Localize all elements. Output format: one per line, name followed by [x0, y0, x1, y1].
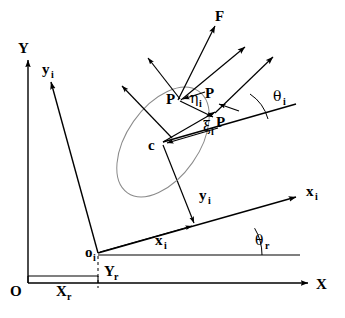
xi-axis-line: [163, 104, 296, 142]
label-coord-yi: y: [199, 187, 207, 203]
label-offset-xr: X: [56, 283, 67, 299]
label-eta-axis: η: [190, 90, 198, 106]
eta-tip-arrow: [219, 104, 239, 111]
body-frame: [51, 82, 300, 255]
figure-root: Y X O y i x i o i X r Y r x i y i: [0, 0, 345, 318]
diagram-labels: Y X O y i x i o i X r Y r x i y i: [10, 8, 327, 302]
xi-coordinate-arrow: [100, 226, 192, 252]
body-yi-axis: [51, 82, 98, 253]
label-xi-axis-point: P: [216, 114, 225, 130]
label-body-xi: x: [306, 183, 314, 199]
label-body-yi: y: [42, 61, 50, 77]
label-body-yi-sub: i: [51, 69, 54, 80]
label-theta-r: θ: [255, 232, 263, 248]
label-global-x: X: [316, 276, 327, 292]
yi-coordinate-arrow: [163, 145, 194, 223]
label-coord-xi: x: [155, 232, 163, 248]
label-body-origin-sub: i: [93, 252, 96, 263]
label-point-p: P: [166, 91, 175, 107]
label-eta-axis-sub: i: [199, 98, 202, 109]
label-theta-r-sub: r: [265, 240, 270, 251]
label-coord-yi-sub: i: [208, 195, 211, 206]
label-global-origin: O: [10, 283, 22, 299]
c-upleft-arrow: [122, 86, 172, 138]
position-coordinates: [100, 145, 194, 252]
kinematics-diagram: Y X O y i x i o i X r Y r x i y i: [0, 0, 345, 318]
label-center-c: c: [148, 137, 155, 153]
label-global-y: Y: [18, 40, 29, 56]
label-force-f: F: [215, 8, 224, 24]
label-xi-axis-sub: i: [211, 126, 214, 137]
label-body-xi-sub: i: [315, 191, 318, 202]
label-body-origin: o: [85, 244, 93, 260]
label-offset-yr-sub: r: [114, 271, 119, 282]
label-offset-xr-sub: r: [67, 291, 72, 302]
label-theta-i-sub: i: [283, 96, 286, 107]
label-xi-axis: ξ: [203, 118, 211, 134]
label-eta-axis-point: P: [205, 85, 214, 101]
label-theta-i: θ: [273, 88, 281, 104]
label-coord-xi-sub: i: [164, 240, 167, 251]
